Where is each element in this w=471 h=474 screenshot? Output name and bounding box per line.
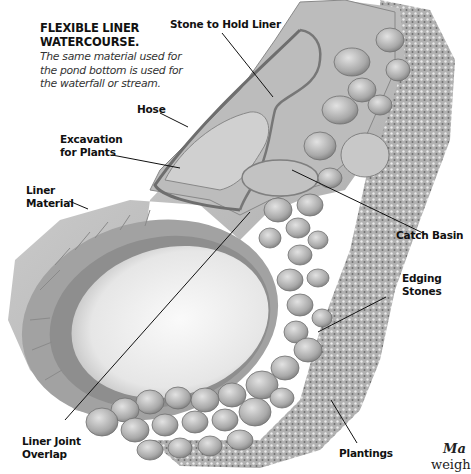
figure-title-line1: FLEXIBLE LINER — [40, 21, 139, 35]
label-edging-stones: Edging Stones — [402, 272, 442, 298]
label-plantings: Plantings — [339, 447, 393, 460]
label-excavation-line1: Excavation — [60, 133, 123, 146]
label-liner-joint-overlap: Liner Joint Overlap — [22, 435, 81, 461]
label-hose: Hose — [137, 103, 166, 116]
label-catch-basin: Catch Basin — [396, 229, 463, 242]
figure-caption: The same material used for the pond bott… — [40, 50, 200, 91]
label-excavation-line2: for Plants — [60, 146, 123, 159]
label-liner-joint-line2: Overlap — [22, 448, 81, 461]
cutoff-text-line1: Ma — [443, 441, 466, 456]
label-stone-to-hold-liner: Stone to Hold Liner — [170, 18, 281, 31]
label-liner-material: Liner Material — [26, 184, 74, 210]
label-liner-material-line2: Material — [26, 197, 74, 210]
figure-title-line2: WATERCOURSE. — [40, 35, 139, 49]
catch-basin — [242, 160, 318, 196]
label-edging-stones-line2: Stones — [402, 285, 442, 298]
label-edging-stones-line1: Edging — [402, 272, 442, 285]
label-excavation: Excavation for Plants — [60, 133, 123, 159]
figure-title: FLEXIBLE LINER WATERCOURSE. — [40, 21, 139, 49]
cutoff-text-line2: weigh — [431, 457, 471, 472]
label-liner-material-line1: Liner — [26, 184, 74, 197]
label-liner-joint-line1: Liner Joint — [22, 435, 81, 448]
